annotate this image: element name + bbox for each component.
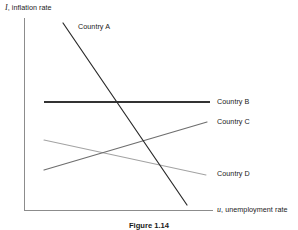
- y-axis-label-text: , inflation rate: [8, 3, 52, 12]
- phillips-curve-plot: [0, 0, 298, 230]
- series-label-country-b: Country B: [217, 98, 249, 105]
- series-label-country-a: Country A: [78, 23, 110, 30]
- series-line-country-c: [44, 122, 207, 170]
- figure-caption: Figure 1.14: [0, 221, 298, 230]
- series-label-country-d: Country D: [217, 170, 250, 177]
- series-line-country-d: [44, 140, 206, 175]
- x-axis-label: u, unemployment rate: [217, 206, 288, 214]
- series-line-country-a: [63, 23, 187, 205]
- y-axis-label: I, inflation rate: [5, 4, 52, 12]
- series-label-country-c: Country C: [217, 118, 250, 125]
- figure-container: I, inflation rate u, unemployment rate C…: [0, 0, 298, 230]
- x-axis-label-text: , unemployment rate: [221, 205, 287, 214]
